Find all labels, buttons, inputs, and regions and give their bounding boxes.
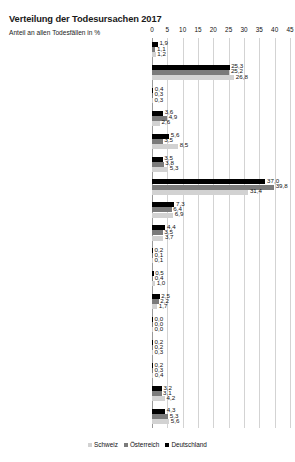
x-tick-label: 40 — [271, 26, 278, 33]
plot-area: I Infektiöse/parasitäre K.1,91,11,2II Ne… — [152, 38, 290, 428]
bar-ch[interactable] — [152, 350, 153, 355]
bar-ch[interactable] — [152, 167, 168, 172]
x-tick-label: 15 — [194, 26, 201, 33]
bar-ch[interactable] — [152, 213, 173, 218]
bar-value-label: 26,8 — [236, 74, 248, 80]
bar-ch[interactable] — [152, 396, 165, 401]
chart-row: VI-VIII Nervensystems, Auge, Ohren3,53,8… — [152, 153, 290, 176]
chart-row: XIV Urogenitalsystem2,52,21,7 — [152, 290, 290, 313]
x-tick-label: 5 — [166, 26, 170, 33]
chart-subtitle: Anteil an allen Todesfällen in % — [9, 29, 100, 36]
page-title: Verteilung der Todesursachen 2017 — [9, 14, 162, 24]
legend-item-de[interactable]: Deutschland — [165, 441, 207, 448]
chart-row: IX Kreislaufsystem37,039,831,4 — [152, 176, 290, 199]
chart-legend: SchweizÖsterreichDeutschland — [0, 441, 295, 448]
bar-value-label: 4,2 — [166, 395, 175, 401]
legend-item-ch[interactable]: Schweiz — [88, 441, 118, 448]
x-tick-label: 10 — [179, 26, 186, 33]
bar-ch[interactable] — [152, 281, 155, 286]
bar-value-label: 0,1 — [155, 257, 164, 263]
chart-row: XII Haut und Unterhaut0,20,10,1 — [152, 244, 290, 267]
bar-ch[interactable] — [152, 144, 178, 149]
chart-row: XVIII Sonstiges (inkl. Ursache unbek.)3,… — [152, 382, 290, 405]
bar-ch[interactable] — [152, 98, 153, 103]
chart-page: Verteilung der Todesursachen 2017 Anteil… — [0, 0, 295, 462]
bar-ch[interactable] — [152, 52, 156, 57]
chart-row: II Neubildungen25,325,226,8 — [152, 61, 290, 84]
bar-value-label: 31,4 — [250, 188, 262, 194]
x-tick-label: 20 — [210, 26, 217, 33]
bar-value-label: 2,6 — [162, 119, 171, 125]
x-tick-label: 0 — [150, 26, 154, 33]
bar-value-label: 0,3 — [155, 97, 164, 103]
bar-value-label: 1,2 — [157, 51, 166, 57]
bar-ch[interactable] — [152, 236, 163, 241]
gridline-45 — [290, 38, 291, 428]
chart-row: XIX Äußerer Ursachen („nichtnatürlich“)4… — [152, 405, 290, 428]
bar-value-label: 0,0 — [155, 326, 164, 332]
chart-row: V Psychische und Verh.störungen5,63,58,5 — [152, 130, 290, 153]
bar-value-label: 0,4 — [155, 372, 164, 378]
bar-ch[interactable] — [152, 121, 160, 126]
legend-label: Österreich — [130, 441, 159, 448]
bar-value-label: 1,7 — [159, 303, 168, 309]
bar-ch[interactable] — [152, 75, 234, 80]
bar-ch[interactable] — [152, 258, 153, 263]
chart-row: IV Endokrin, Stoffwechsel3,64,92,6 — [152, 107, 290, 130]
bar-value-label: 0,3 — [155, 349, 164, 355]
bar-ch[interactable] — [152, 373, 153, 378]
chart-row: III Blut, Immunsystem0,40,30,3 — [152, 84, 290, 107]
chart-row: XVII Angeb. Fehlbildungen/Anomalien0,20,… — [152, 359, 290, 382]
x-tick-label: 25 — [225, 26, 232, 33]
bar-value-label: 3,7 — [165, 234, 174, 240]
legend-item-at[interactable]: Österreich — [124, 441, 159, 448]
chart-row: I Infektiöse/parasitäre K.1,91,11,2 — [152, 38, 290, 61]
chart-row: XI Verdauungssystems4,43,53,7 — [152, 222, 290, 245]
chart-row: XV Schwangerschaft, Geburt, W.0,00,00,0 — [152, 313, 290, 336]
bar-ch[interactable] — [152, 419, 169, 424]
bar-ch[interactable] — [152, 304, 157, 309]
legend-swatch-icon — [124, 443, 128, 447]
legend-label: Deutschland — [171, 441, 207, 448]
chart-row: XVI K. aus Perinatalperiode0,20,20,3 — [152, 336, 290, 359]
bar-value-label: 3,5 — [164, 137, 173, 143]
bar-value-label: 8,5 — [180, 142, 189, 148]
bar-value-label: 6,9 — [175, 211, 184, 217]
chart-row: X Atmungssystem7,36,46,9 — [152, 199, 290, 222]
bar-value-label: 1,0 — [157, 280, 166, 286]
x-axis-ticks: 051015202530354045 — [152, 26, 290, 37]
legend-swatch-icon — [88, 443, 92, 447]
legend-swatch-icon — [165, 443, 169, 447]
bar-value-label: 39,8 — [276, 183, 288, 189]
x-tick-label: 30 — [240, 26, 247, 33]
bar-ch[interactable] — [152, 190, 248, 195]
chart-row: XIII Muskel-Skelett, Bindegewebe0,50,41,… — [152, 267, 290, 290]
bar-value-label: 5,6 — [171, 418, 180, 424]
bar-value-label: 5,3 — [170, 165, 179, 171]
bar-ch[interactable] — [152, 327, 153, 332]
x-tick-label: 35 — [256, 26, 263, 33]
legend-label: Schweiz — [94, 441, 118, 448]
x-tick-label: 45 — [286, 26, 293, 33]
